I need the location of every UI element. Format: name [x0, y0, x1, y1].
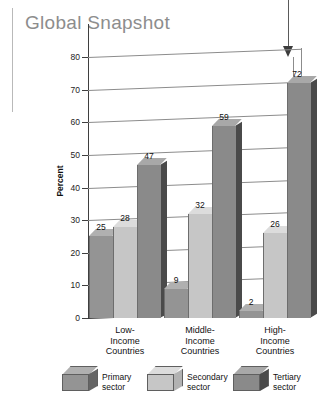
- grouped-bar-chart: Percent 0 10 20 30 40 50 60 70 80 25: [0, 0, 325, 414]
- bar-middle-income-secondary[interactable]: [188, 214, 211, 318]
- y-tick-label-10: 10: [62, 281, 80, 289]
- y-tick-label-70: 70: [62, 86, 80, 94]
- gridline-50: [88, 147, 302, 156]
- down-arrow-icon: [283, 46, 293, 57]
- y-tick-label-60: 60: [62, 118, 80, 126]
- bar-low-income-primary[interactable]: [89, 236, 112, 318]
- bar-front-face: [188, 214, 212, 318]
- gridline-40: [88, 180, 302, 189]
- y-tick-label-0: 0: [62, 314, 80, 322]
- y-tick-label-80: 80: [62, 53, 80, 61]
- y-tick-label-50: 50: [62, 151, 80, 159]
- tertiary-sector-cube-icon: [233, 374, 260, 391]
- bar-front-face: [239, 311, 263, 318]
- annotation-arrow-line: [288, 0, 289, 50]
- bar-front-face: [212, 126, 236, 318]
- category-line-2: Income: [235, 336, 315, 347]
- x-axis-category-high-income: High- Income Countries: [235, 325, 315, 357]
- bar-side-face: [235, 122, 242, 318]
- category-line-3: Countries: [85, 346, 165, 357]
- legend-label-line-1: Secondary: [187, 372, 228, 382]
- legend-label-secondary-sector: Secondary sector: [187, 372, 228, 392]
- bar-front-face: [263, 233, 287, 318]
- x-axis-category-low-income: Low- Income Countries: [85, 325, 165, 357]
- y-tick-label-20: 20: [62, 249, 80, 257]
- bar-middle-income-primary[interactable]: [164, 289, 187, 318]
- legend-label-line-2: sector: [102, 382, 131, 392]
- bar-value-label-middle-secondary: 32: [188, 200, 212, 210]
- bar-front-face: [164, 289, 188, 318]
- bar-high-income-primary[interactable]: [239, 311, 262, 318]
- bar-middle-income-tertiary[interactable]: [212, 126, 235, 318]
- gridline-60: [88, 114, 302, 123]
- category-line-2: Income: [160, 336, 240, 347]
- bar-value-label-high-primary: 2: [239, 297, 263, 307]
- plot-area: 25 28 47 9 32: [88, 57, 302, 318]
- category-line-2: Income: [85, 336, 165, 347]
- bar-side-face: [310, 79, 317, 318]
- gridline-70: [88, 82, 302, 91]
- category-line-1: Low-: [85, 325, 165, 336]
- bar-value-label-high-secondary: 26: [263, 219, 287, 229]
- gridline-80: [88, 49, 302, 58]
- bar-value-label-low-primary: 25: [89, 222, 113, 232]
- secondary-sector-cube-icon: [147, 374, 174, 391]
- y-tick-label-30: 30: [62, 216, 80, 224]
- bar-value-label-middle-tertiary: 59: [212, 112, 236, 122]
- bar-front-face: [89, 236, 113, 318]
- category-line-3: Countries: [160, 346, 240, 357]
- bar-value-label-middle-primary: 9: [164, 275, 188, 285]
- chart-legend: Primary sector Secondary sector Tert: [0, 368, 325, 408]
- primary-sector-cube-icon: [62, 374, 89, 391]
- legend-label-line-2: sector: [187, 382, 228, 392]
- bar-value-label-high-tertiary: 72: [285, 69, 309, 79]
- x-axis-category-middle-income: Middle- Income Countries: [160, 325, 240, 357]
- bar-front-face: [137, 165, 161, 318]
- bar-low-income-tertiary[interactable]: [137, 165, 160, 318]
- y-tick-label-40: 40: [62, 184, 80, 192]
- bar-front-face: [113, 227, 137, 318]
- bar-high-income-tertiary[interactable]: [287, 83, 310, 318]
- bar-value-label-low-secondary: 28: [113, 213, 137, 223]
- legend-label-line-2: sector: [273, 382, 301, 392]
- bar-front-face: [287, 83, 311, 318]
- legend-label-line-1: Tertiary: [273, 372, 301, 382]
- bar-low-income-secondary[interactable]: [113, 227, 136, 318]
- category-line-1: Middle-: [160, 325, 240, 336]
- legend-label-line-1: Primary: [102, 372, 131, 382]
- category-line-1: High-: [235, 325, 315, 336]
- legend-label-tertiary-sector: Tertiary sector: [273, 372, 301, 392]
- bar-high-income-secondary[interactable]: [263, 233, 286, 318]
- bar-value-label-low-tertiary: 47: [137, 151, 161, 161]
- category-line-3: Countries: [235, 346, 315, 357]
- legend-label-primary-sector: Primary sector: [102, 372, 131, 392]
